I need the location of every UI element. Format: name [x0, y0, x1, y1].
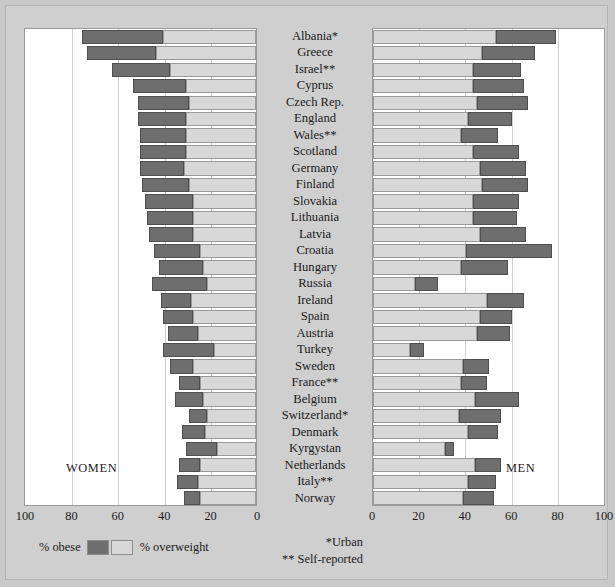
- category-label: Russia: [259, 275, 371, 291]
- bar-segment-overweight: [373, 194, 473, 208]
- bar-segment-obese: [175, 392, 203, 406]
- category-label: Hungary: [259, 259, 371, 275]
- bar-row: [373, 210, 604, 226]
- bar-segment-overweight: [373, 227, 480, 241]
- bar-segment-overweight: [203, 392, 256, 406]
- bar-segment-obese: [168, 326, 198, 340]
- bar-segment-obese: [112, 63, 170, 77]
- bar-segment-obese: [147, 211, 193, 225]
- bar-row: [373, 29, 604, 45]
- bar-segment-overweight: [373, 244, 466, 258]
- bar-row: [25, 441, 256, 457]
- bar-segment-obese: [87, 46, 157, 60]
- bar-segment-overweight: [373, 30, 496, 44]
- bar-segment-obese: [466, 244, 552, 258]
- category-label: Germany: [259, 160, 371, 176]
- bar-row: [373, 458, 604, 474]
- bar-segment-obese: [179, 376, 200, 390]
- bar-segment-overweight: [189, 96, 256, 110]
- bar-segment-obese: [170, 359, 193, 373]
- bar-segment-obese: [473, 63, 522, 77]
- bar-segment-obese: [152, 277, 208, 291]
- bar-segment-obese: [475, 458, 501, 472]
- bar-segment-obese: [475, 392, 519, 406]
- bar-row: [25, 144, 256, 160]
- bar-segment-obese: [468, 425, 498, 439]
- category-label: Lithuania: [259, 209, 371, 225]
- bar-segment-obese: [487, 293, 524, 307]
- bar-segment-obese: [186, 442, 216, 456]
- bar-segment-overweight: [373, 409, 459, 423]
- bar-row: [373, 375, 604, 391]
- bar-segment-overweight: [373, 475, 468, 489]
- bar-segment-obese: [154, 244, 200, 258]
- bar-segment-overweight: [200, 491, 256, 505]
- bar-row: [25, 293, 256, 309]
- category-label: Switzerland*: [259, 407, 371, 423]
- bar-row: [25, 491, 256, 506]
- bar-segment-obese: [461, 128, 498, 142]
- bar-segment-obese: [145, 194, 194, 208]
- value-axis-women: 100806040200: [24, 509, 257, 527]
- bar-row: [25, 276, 256, 292]
- legend-swatch-overweight: [111, 540, 133, 555]
- bar-segment-overweight: [214, 343, 256, 357]
- category-label: Israel**: [259, 61, 371, 77]
- bar-segment-overweight: [373, 359, 463, 373]
- bar-segment-overweight: [200, 458, 256, 472]
- bar-segment-overweight: [193, 194, 256, 208]
- axis-tick-0: 0: [369, 509, 375, 524]
- axis-tick-0: 0: [254, 509, 260, 524]
- bar-segment-overweight: [156, 46, 256, 60]
- category-label: Slovakia: [259, 193, 371, 209]
- bar-row: [373, 276, 604, 292]
- bar-segment-obese: [482, 46, 535, 60]
- bar-row: [25, 194, 256, 210]
- bar-row: [25, 408, 256, 424]
- bar-row: [373, 392, 604, 408]
- bar-segment-obese: [184, 491, 200, 505]
- bar-segment-overweight: [189, 178, 256, 192]
- plot-panel-men: [372, 28, 605, 506]
- category-label: France**: [259, 374, 371, 390]
- bar-segment-obese: [140, 145, 186, 159]
- bar-row: [25, 177, 256, 193]
- bar-row: [373, 95, 604, 111]
- bar-segment-obese: [463, 359, 489, 373]
- axis-tick-60: 60: [112, 509, 124, 524]
- category-label: Scotland: [259, 143, 371, 159]
- bar-row: [373, 408, 604, 424]
- bar-row: [25, 161, 256, 177]
- bar-segment-obese: [477, 96, 528, 110]
- axis-tick-20: 20: [204, 509, 216, 524]
- bar-segment-overweight: [163, 30, 256, 44]
- bar-segment-overweight: [373, 326, 477, 340]
- chart-footnotes: *Urban ** Self-reported: [282, 534, 363, 568]
- bar-segment-obese: [177, 475, 198, 489]
- bar-row: [373, 309, 604, 325]
- axis-tick-100: 100: [16, 509, 35, 524]
- bar-row: [25, 111, 256, 127]
- bar-segment-overweight: [193, 310, 256, 324]
- bar-segment-obese: [138, 112, 187, 126]
- bar-segment-overweight: [373, 178, 482, 192]
- bar-row: [373, 62, 604, 78]
- bar-row: [25, 227, 256, 243]
- bar-segment-obese: [480, 310, 512, 324]
- category-label: Finland: [259, 176, 371, 192]
- bar-segment-obese: [182, 425, 205, 439]
- bar-segment-overweight: [373, 96, 477, 110]
- footnote-urban: *Urban: [282, 534, 363, 551]
- bar-segment-obese: [477, 326, 509, 340]
- bar-segment-obese: [461, 376, 487, 390]
- plot-panel-women: [24, 28, 257, 506]
- bar-segment-overweight: [373, 293, 487, 307]
- category-label: Sweden: [259, 358, 371, 374]
- bar-segment-obese: [163, 343, 214, 357]
- bar-segment-obese: [410, 343, 424, 357]
- category-label: Spain: [259, 308, 371, 324]
- bar-segment-overweight: [186, 112, 256, 126]
- bar-row: [373, 359, 604, 375]
- bar-segment-overweight: [373, 211, 473, 225]
- bar-row: [25, 62, 256, 78]
